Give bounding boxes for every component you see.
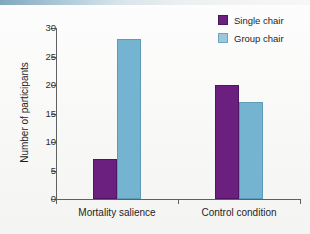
legend-label-single-chair: Single chair [234, 15, 284, 26]
bar-single-chair-mortality-salience[interactable] [93, 159, 117, 199]
y-axis-tick-label: 0 [20, 194, 56, 204]
y-axis-tick-label-text: 0 [32, 194, 56, 204]
y-axis-tick-label: 20 [20, 80, 56, 90]
y-axis-tick-label: 5 [20, 166, 56, 176]
bar-chart-figure: Number of participants 051015202530Morta… [0, 0, 310, 234]
y-axis-tick-label-text: 15 [32, 109, 56, 119]
x-axis-tick [300, 199, 301, 204]
legend-swatch-icon-single-chair [218, 15, 228, 25]
y-axis-tick-label-text: 10 [32, 137, 56, 147]
bar-group-chair-mortality-salience[interactable] [117, 39, 141, 199]
y-axis-tick-label-text: 25 [32, 52, 56, 62]
bar-single-chair-control-condition[interactable] [215, 85, 239, 199]
x-axis-category-label: Mortality salience [56, 207, 178, 218]
legend-label-group-chair: Group chair [234, 33, 284, 44]
legend-swatch-icon-group-chair [218, 33, 228, 43]
y-axis-tick-label-text: 30 [32, 23, 56, 33]
y-axis-tick-label: 10 [20, 137, 56, 147]
y-axis-tick-label: 15 [20, 109, 56, 119]
legend-item-single-chair[interactable]: Single chair [218, 12, 308, 28]
y-axis-line [56, 28, 57, 200]
y-axis-tick-label-text: 5 [32, 166, 56, 176]
y-axis-tick-label: 30 [20, 23, 56, 33]
chart-legend: Single chair Group chair [218, 12, 308, 48]
y-axis-tick-label-text: 20 [32, 80, 56, 90]
legend-item-group-chair[interactable]: Group chair [218, 30, 308, 46]
x-axis-category-label: Control condition [178, 207, 300, 218]
y-axis-tick-label: 25 [20, 52, 56, 62]
x-axis-tick [178, 199, 179, 204]
x-axis-tick [56, 199, 57, 204]
bar-group-chair-control-condition[interactable] [239, 102, 263, 199]
